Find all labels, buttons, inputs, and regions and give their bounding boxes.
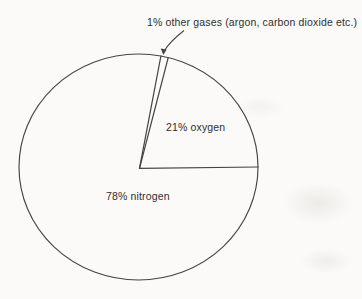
pie-slice-boundary-line	[140, 167, 259, 168]
pie-slice-boundary-line	[140, 56, 161, 168]
pie-slice-boundary-line	[140, 58, 169, 169]
annotation-other-gases-label: 1% other gases (argon, carbon dioxide et…	[147, 16, 357, 28]
annotation-arrowhead-icon	[161, 49, 167, 55]
pie-chart-figure: 1% other gases (argon, carbon dioxide et…	[0, 0, 362, 299]
pie-slice-boundaries	[140, 56, 259, 168]
pie-chart-canvas	[0, 0, 362, 299]
slice-label-oxygen: 21% oxygen	[166, 121, 225, 133]
annotation-arrow	[165, 31, 184, 51]
slice-label-nitrogen: 78% nitrogen	[106, 190, 170, 202]
